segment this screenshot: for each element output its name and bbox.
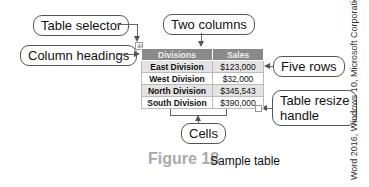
bracket-cells-right — [226, 109, 227, 115]
callout-table-resize-line2: handle — [280, 108, 349, 123]
cell-sales[interactable]: $345,543 — [213, 85, 264, 97]
cell-division[interactable]: East Division — [142, 61, 213, 73]
table-resize-handle[interactable] — [255, 105, 262, 112]
table-row: South Division $390,000 — [142, 97, 264, 109]
callout-table-selector: Table selector — [33, 15, 129, 36]
table-row: North Division $345,543 — [142, 85, 264, 97]
arrow-two-columns — [198, 41, 204, 47]
callout-column-headings: Column headings — [20, 45, 137, 66]
arrow-cells — [195, 115, 201, 121]
leader-five-rows — [270, 66, 274, 67]
callout-table-resize-handle: Table resize handle — [272, 90, 357, 126]
table-row: East Division $123,000 — [142, 61, 264, 73]
sample-table: Divisions Sales East Division $123,000 W… — [141, 48, 264, 109]
header-row: Divisions Sales — [142, 49, 264, 61]
leader-cells — [198, 121, 199, 124]
table-row: West Division $32,000 — [142, 73, 264, 85]
cell-sales[interactable]: $123,000 — [213, 61, 264, 73]
leader-column-headings — [118, 54, 135, 55]
callout-cells: Cells — [181, 123, 226, 144]
figure-number: Figure 18 — [148, 150, 219, 168]
callout-two-columns: Two columns — [163, 14, 255, 35]
header-divisions: Divisions — [142, 49, 213, 61]
figure-caption: Sample table — [210, 154, 280, 168]
cell-division[interactable]: West Division — [142, 73, 213, 85]
cell-sales[interactable]: $32,000 — [213, 73, 264, 85]
leader-resize-handle — [267, 108, 273, 109]
leader-table-selector-h — [117, 24, 138, 25]
arrow-five-rows — [264, 63, 270, 69]
callout-five-rows: Five rows — [273, 56, 345, 77]
arrow-column-headings — [134, 51, 140, 57]
header-sales: Sales — [213, 49, 264, 61]
image-credit: Word 2016, Windows 10, Microsoft Corpora… — [349, 0, 359, 180]
callout-table-resize-line1: Table resize — [280, 93, 349, 108]
cell-division[interactable]: South Division — [142, 97, 213, 109]
cell-division[interactable]: North Division — [142, 85, 213, 97]
